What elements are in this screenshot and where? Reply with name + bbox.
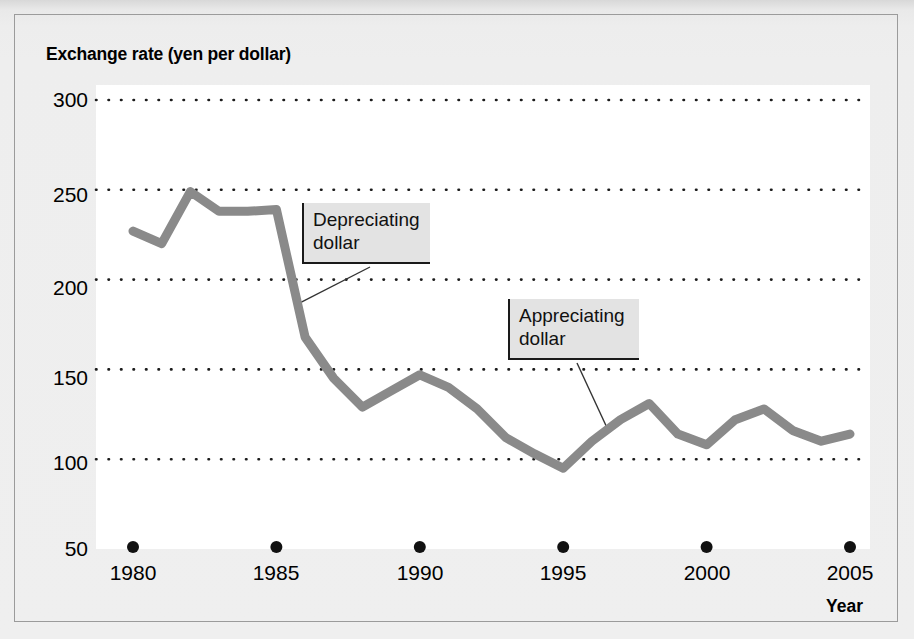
annotation-depreciating-dollar: Depreciating dollar [302, 203, 430, 264]
chart-plot-svg [0, 0, 914, 639]
exchange-rate-line [133, 192, 850, 469]
x-axis-tick-markers [127, 541, 856, 553]
annotation-appreciating-dollar: Appreciating dollar [508, 299, 639, 360]
gridlines [96, 100, 870, 459]
chart-figure: Exchange rate (yen per dollar) Year 300 … [0, 0, 914, 639]
